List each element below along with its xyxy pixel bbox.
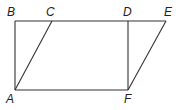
label-f: F <box>124 92 132 106</box>
segment-ac <box>15 21 52 90</box>
segment-fe <box>128 21 166 90</box>
label-d: D <box>123 5 132 19</box>
label-b: B <box>7 5 15 19</box>
label-a: A <box>5 92 14 106</box>
label-c: C <box>46 5 55 19</box>
geometry-diagram: B C D E A F <box>0 0 180 110</box>
label-e: E <box>164 5 173 19</box>
